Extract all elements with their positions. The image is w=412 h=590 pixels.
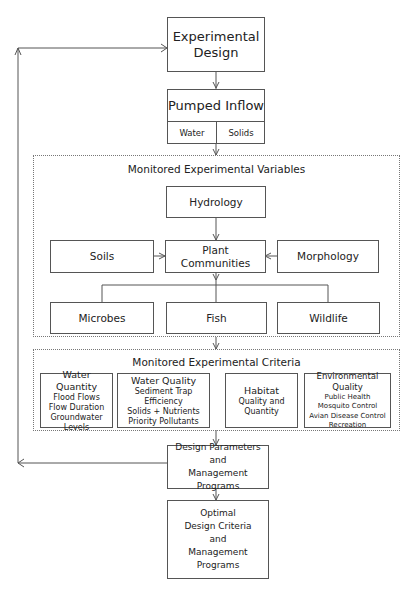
- habitat-item: Quantity: [244, 407, 279, 417]
- design-parameters-line: Design Parameters: [175, 441, 260, 454]
- design-parameters-box: Design Parameters and Management Program…: [167, 445, 269, 489]
- morphology-box: Morphology: [277, 240, 379, 273]
- habitat-item: Quality and: [238, 397, 284, 407]
- water-quantity-item: Groundwater Levels: [41, 413, 112, 433]
- water-quality-title: Water Quality: [131, 375, 196, 387]
- environmental-quality-title: Environmental Quality: [305, 371, 390, 393]
- water-quality-item: Solids + Nutrients: [127, 407, 199, 417]
- pumped-inflow-water: Water: [168, 122, 217, 144]
- monitored-variables-title: Monitored Experimental Variables: [33, 163, 400, 176]
- optimal-line: Design Criteria: [184, 520, 251, 533]
- design-parameters-line: Management Programs: [168, 467, 268, 493]
- habitat-box: Habitat Quality and Quantity: [225, 373, 298, 428]
- habitat-title: Habitat: [244, 385, 279, 397]
- hydrology-box: Hydrology: [166, 186, 266, 218]
- environmental-quality-item: Avian Disease Control: [309, 412, 385, 422]
- pumped-inflow-box: Pumped Inflow Water Solids: [167, 89, 265, 144]
- water-quantity-title: Water Quantity: [41, 369, 112, 393]
- water-quantity-item: Flood Flows: [53, 393, 100, 403]
- optimal-design-box: Optimal Design Criteria and Management P…: [167, 500, 269, 579]
- wildlife-box: Wildlife: [277, 302, 380, 334]
- environmental-quality-item: Recreation: [329, 421, 366, 431]
- environmental-quality-box: Environmental Quality Public Health Mosq…: [304, 373, 391, 428]
- experimental-design-box: Experimental Design: [167, 17, 265, 72]
- pumped-inflow-solids: Solids: [217, 122, 265, 144]
- optimal-line: Management Programs: [168, 546, 268, 572]
- water-quality-box: Water Quality Sediment Trap Efficiency S…: [117, 373, 210, 428]
- experimental-design-line-1: Experimental: [173, 29, 260, 45]
- microbes-box: Microbes: [50, 302, 154, 334]
- water-quality-item: Sediment Trap Efficiency: [118, 387, 209, 407]
- optimal-line: and: [210, 533, 227, 546]
- environmental-quality-item: Mosquito Control: [318, 402, 377, 412]
- soils-box: Soils: [50, 240, 154, 273]
- design-parameters-line: and: [210, 454, 227, 467]
- optimal-line: Optimal: [200, 507, 236, 520]
- water-quality-item: Priority Pollutants: [128, 417, 198, 427]
- water-quantity-item: Flow Duration: [49, 403, 105, 413]
- water-quantity-box: Water Quantity Flood Flows Flow Duration…: [40, 373, 113, 428]
- environmental-quality-item: Public Health: [325, 393, 371, 403]
- monitored-criteria-title: Monitored Experimental Criteria: [33, 356, 400, 369]
- fish-box: Fish: [166, 302, 267, 334]
- pumped-inflow-title: Pumped Inflow: [168, 90, 264, 122]
- experimental-design-line-2: Design: [194, 45, 239, 61]
- plant-communities-box: Plant Communities: [165, 240, 266, 273]
